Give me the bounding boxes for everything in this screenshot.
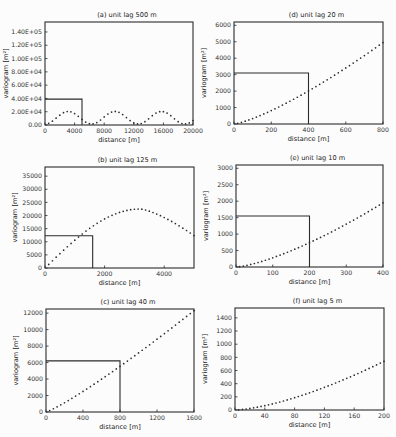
data-point bbox=[152, 212, 154, 214]
data-point bbox=[55, 117, 57, 119]
data-point bbox=[175, 324, 177, 326]
data-point bbox=[111, 111, 113, 113]
data-point bbox=[278, 106, 280, 108]
panel-c: (c) unit lag 40 m04008001200160002000400… bbox=[12, 298, 202, 431]
data-point bbox=[182, 318, 184, 320]
x-tick-label: 0 bbox=[44, 414, 48, 421]
data-point bbox=[242, 409, 244, 411]
data-point bbox=[74, 239, 76, 241]
data-point bbox=[167, 219, 169, 221]
y-axis-label: variogram [m²] bbox=[2, 48, 10, 98]
y-axis-label: variogram [m²] bbox=[11, 192, 19, 242]
data-point bbox=[123, 363, 125, 365]
data-point bbox=[378, 204, 380, 206]
data-point bbox=[364, 55, 366, 57]
x-tick-label: 8000 bbox=[96, 127, 112, 134]
data-point bbox=[316, 389, 318, 391]
y-tick-label: 1000 bbox=[215, 104, 231, 111]
data-point bbox=[166, 112, 168, 114]
y-axis-label: variogram [m²] bbox=[200, 48, 208, 98]
data-point bbox=[342, 225, 344, 227]
data-point bbox=[119, 365, 121, 367]
data-point bbox=[96, 222, 98, 224]
data-point bbox=[352, 62, 354, 64]
y-tick-label: 15000 bbox=[22, 225, 42, 232]
data-point bbox=[140, 123, 142, 125]
data-point bbox=[256, 116, 258, 118]
data-point bbox=[250, 264, 252, 266]
data-point bbox=[345, 223, 347, 225]
y-axis-label: variogram [m²] bbox=[202, 191, 210, 241]
data-point bbox=[252, 118, 254, 120]
panel-title: (b) unit lag 125 m bbox=[98, 156, 158, 164]
y-tick-label: 6000 bbox=[215, 21, 231, 28]
data-point bbox=[312, 240, 314, 242]
data-point bbox=[81, 119, 83, 121]
data-point bbox=[186, 230, 188, 232]
half-range-box bbox=[46, 361, 120, 412]
data-point bbox=[309, 242, 311, 244]
x-tick-label: 2000 bbox=[97, 270, 113, 277]
data-point bbox=[286, 399, 288, 401]
data-point bbox=[178, 225, 180, 227]
data-point bbox=[287, 251, 289, 253]
data-point bbox=[338, 381, 340, 383]
data-point bbox=[181, 123, 183, 125]
x-axis-label: distance [m] bbox=[288, 135, 330, 143]
data-point bbox=[78, 236, 80, 238]
data-point bbox=[338, 227, 340, 229]
data-point bbox=[48, 122, 50, 124]
data-point bbox=[75, 395, 77, 397]
data-point bbox=[375, 206, 377, 208]
data-point bbox=[130, 358, 132, 360]
data-point bbox=[243, 265, 245, 267]
data-point bbox=[93, 383, 95, 385]
x-tick-label: 0 bbox=[43, 127, 47, 134]
data-point bbox=[141, 349, 143, 351]
data-point bbox=[100, 220, 102, 222]
data-point bbox=[298, 247, 300, 249]
data-point bbox=[248, 119, 250, 121]
data-point bbox=[177, 121, 179, 123]
data-point bbox=[63, 249, 65, 251]
panel-title: (f) unit lag 5 m bbox=[293, 297, 342, 305]
data-point bbox=[115, 368, 117, 370]
data-point bbox=[85, 230, 87, 232]
data-point bbox=[241, 121, 243, 123]
data-point bbox=[238, 409, 240, 411]
data-point bbox=[70, 243, 72, 245]
data-point bbox=[92, 123, 94, 125]
data-point bbox=[297, 396, 299, 398]
data-point bbox=[49, 410, 51, 412]
panel-title: (e) unit lag 10 m bbox=[290, 154, 345, 162]
data-point bbox=[335, 382, 337, 384]
data-point bbox=[244, 120, 246, 122]
data-point bbox=[185, 123, 187, 125]
y-tick-label: 1000 bbox=[216, 340, 232, 347]
data-point bbox=[272, 257, 274, 259]
data-point bbox=[141, 208, 143, 210]
y-tick-label: 0.00 bbox=[28, 121, 42, 128]
panel-b: (b) unit lag 125 m0200040000500010000150… bbox=[11, 156, 195, 287]
data-point bbox=[257, 406, 259, 408]
data-point bbox=[261, 261, 263, 263]
data-point bbox=[268, 404, 270, 406]
data-point bbox=[356, 217, 358, 219]
x-tick-label: 100 bbox=[267, 269, 279, 276]
y-tick-label: 2.00E+04 bbox=[11, 108, 42, 115]
y-tick-label: 6.00E+04 bbox=[11, 81, 42, 88]
y-tick-label: 8.00E+04 bbox=[11, 68, 42, 75]
data-point bbox=[294, 248, 296, 250]
y-tick-label: 1400 bbox=[216, 314, 232, 321]
x-axis-label: distance [m] bbox=[99, 279, 141, 287]
y-axis-label: variogram [m²] bbox=[12, 335, 20, 385]
data-point bbox=[305, 393, 307, 395]
x-tick-label: 1600 bbox=[186, 414, 202, 421]
data-point bbox=[81, 233, 83, 235]
data-point bbox=[122, 210, 124, 212]
data-point bbox=[66, 111, 68, 113]
data-point bbox=[279, 254, 281, 256]
y-tick-label: 12000 bbox=[23, 309, 43, 316]
data-point bbox=[311, 88, 313, 90]
plot-frame bbox=[45, 22, 193, 125]
